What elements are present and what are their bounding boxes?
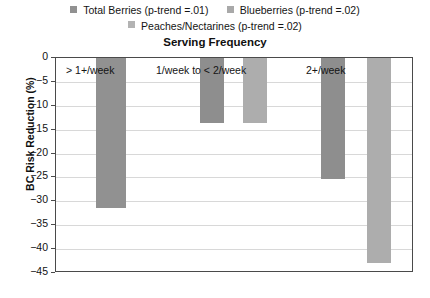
y-tick-label: −45: [0, 265, 48, 277]
bar-total-berries-gt1week: [96, 58, 126, 208]
chart-title: Serving Frequency: [0, 36, 430, 48]
category-label-2: 2+/week: [306, 64, 345, 76]
y-tick-label: −5: [0, 74, 48, 86]
legend-row-2: Peaches/Nectarines (p-trend =.02): [0, 17, 430, 32]
legend-label-peaches-nectarines: Peaches/Nectarines (p-trend =.02): [141, 19, 302, 33]
legend-swatch-total-berries: [70, 6, 77, 13]
chart-legend: Total Berries (p-trend =.01) Blueberries…: [0, 2, 430, 33]
chart-container: Total Berries (p-trend =.01) Blueberries…: [0, 0, 430, 298]
y-tick-label: −10: [0, 98, 48, 110]
legend-label-blueberries: Blueberries (p-trend =.02): [240, 3, 360, 17]
legend-item-peaches-nectarines: Peaches/Nectarines (p-trend =.02): [128, 18, 302, 33]
gridline: [56, 249, 412, 250]
legend-row-1: Total Berries (p-trend =.01) Blueberries…: [0, 2, 430, 17]
legend-swatch-blueberries: [227, 6, 234, 13]
y-tick-mark: [51, 272, 55, 273]
y-tick-label: −40: [0, 241, 48, 253]
bar-total-berries-2plusweek: [321, 58, 345, 179]
y-tick-label: −30: [0, 193, 48, 205]
y-tick-label: 0: [0, 50, 48, 62]
legend-swatch-peaches-nectarines: [128, 21, 135, 28]
legend-item-total-berries: Total Berries (p-trend =.01): [70, 2, 208, 17]
bar-blueberries-2plusweek: [367, 58, 391, 263]
category-label-0: > 1+/week: [66, 64, 114, 76]
legend-item-blueberries: Blueberries (p-trend =.02): [227, 2, 360, 17]
y-tick-label: −15: [0, 122, 48, 134]
legend-label-total-berries: Total Berries (p-trend =.01): [83, 3, 208, 17]
plot-area: > 1+/week1/week to < 2/week2+/week: [55, 57, 413, 272]
category-label-1: 1/week to < 2/week: [156, 64, 246, 76]
gridline: [56, 225, 412, 226]
bar-blueberries-1to2week: [243, 58, 267, 123]
y-tick-label: −20: [0, 146, 48, 158]
y-tick-label: −25: [0, 169, 48, 181]
y-tick-label: −35: [0, 217, 48, 229]
